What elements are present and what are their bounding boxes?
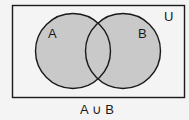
- venn-diagram: A B U A ∪ B: [0, 0, 189, 120]
- universe-label: U: [164, 9, 173, 24]
- diagram-caption: A ∪ B: [80, 102, 114, 117]
- set-b-label: B: [138, 26, 147, 41]
- set-a-label: A: [48, 26, 57, 41]
